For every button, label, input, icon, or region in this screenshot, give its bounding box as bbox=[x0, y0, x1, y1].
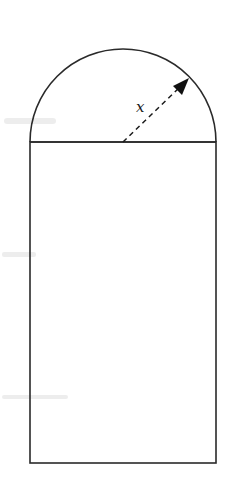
scan-smudge bbox=[2, 395, 68, 399]
radius-label: x bbox=[136, 98, 145, 116]
radius-dashed-line bbox=[123, 87, 180, 142]
rectangle-body bbox=[30, 142, 216, 463]
semicircle-arc bbox=[30, 49, 216, 142]
scan-smudge bbox=[4, 118, 56, 124]
scan-smudge bbox=[2, 252, 36, 257]
window-diagram: x bbox=[0, 0, 226, 491]
